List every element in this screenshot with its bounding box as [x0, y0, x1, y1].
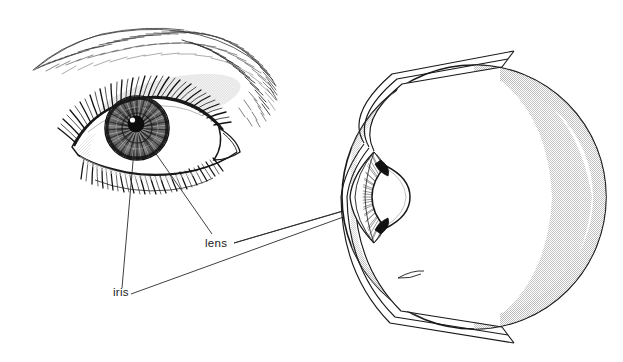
eye-anatomy-figure: lens iris	[0, 0, 623, 362]
pupil	[128, 116, 145, 133]
eye-front-view-drawing	[33, 28, 277, 194]
label-iris: iris	[113, 286, 129, 298]
figure-canvas: lens iris	[0, 0, 623, 362]
label-lens: lens	[205, 237, 227, 249]
labels: lens iris	[113, 237, 227, 298]
eye-cross-section-diagram	[341, 51, 606, 343]
